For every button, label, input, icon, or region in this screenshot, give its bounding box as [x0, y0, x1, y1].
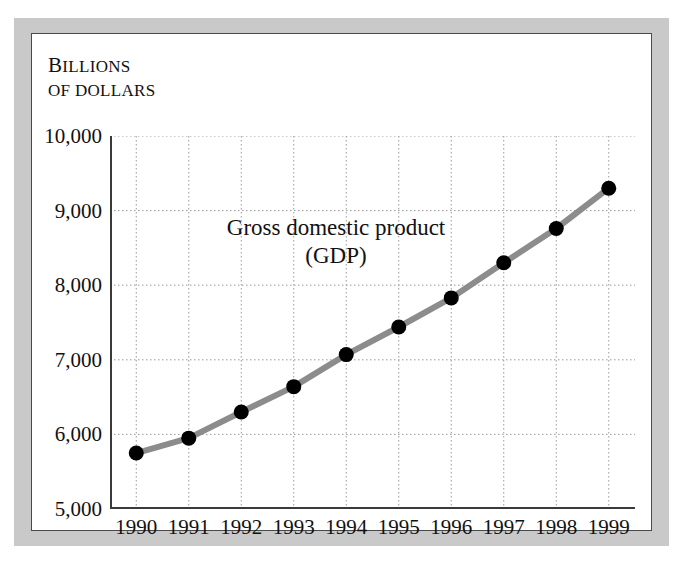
plot-area	[110, 136, 635, 509]
series-label-gdp: Gross domestic product (GDP)	[186, 214, 486, 270]
x-axis-tick-label: 1994	[325, 515, 367, 540]
series-label-line-1: Gross domestic product	[186, 214, 486, 242]
y-axis-tick-label: 7,000	[55, 347, 102, 372]
x-axis-tick-label: 1996	[430, 515, 472, 540]
y-axis-tick-label: 10,000	[44, 124, 102, 149]
y-axis-tick-label: 9,000	[55, 198, 102, 223]
x-axis-tick-labels: 1990199119921993199419951996199719981999	[110, 515, 635, 543]
unit-caption-line-2: OF DOLLARS	[48, 80, 155, 102]
x-axis-tick-label: 1991	[168, 515, 210, 540]
plot-axes-frame	[110, 136, 635, 509]
x-axis-tick-label: 1998	[535, 515, 577, 540]
x-axis-tick-label: 1993	[273, 515, 315, 540]
axis-unit-caption: BILLIONS OF DOLLARS	[48, 52, 155, 102]
x-axis-tick-label: 1999	[588, 515, 630, 540]
series-label-line-2: (GDP)	[186, 242, 486, 270]
x-axis-tick-label: 1995	[378, 515, 420, 540]
y-axis-tick-label: 8,000	[55, 273, 102, 298]
x-axis-tick-label: 1997	[483, 515, 525, 540]
x-axis-tick-label: 1990	[115, 515, 157, 540]
y-axis-tick-labels: 5,0006,0007,0008,0009,00010,000	[36, 136, 102, 509]
figure-container: BILLIONS OF DOLLARS 5,0006,0007,0008,000…	[0, 0, 683, 562]
unit-caption-line-1: BILLIONS	[48, 52, 155, 80]
y-axis-tick-label: 5,000	[55, 497, 102, 522]
y-axis-tick-label: 6,000	[55, 422, 102, 447]
x-axis-tick-label: 1992	[220, 515, 262, 540]
